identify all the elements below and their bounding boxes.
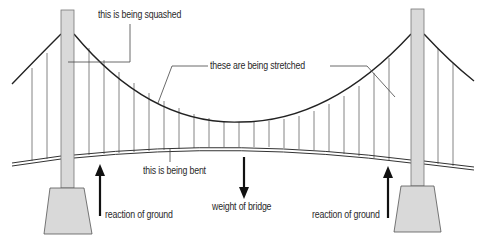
main-cable xyxy=(12,34,474,122)
tower-label: this is being squashed xyxy=(98,9,181,20)
right-tower xyxy=(394,9,441,232)
leader-lines xyxy=(68,24,395,162)
reaction-left-label: reaction of ground xyxy=(105,209,173,220)
weight-label: weight of bridge xyxy=(212,201,271,212)
hangers-label: these are being stretched xyxy=(210,60,305,71)
deck-label: this is being bent xyxy=(143,165,206,176)
reaction-right-label: reaction of ground xyxy=(312,209,380,220)
